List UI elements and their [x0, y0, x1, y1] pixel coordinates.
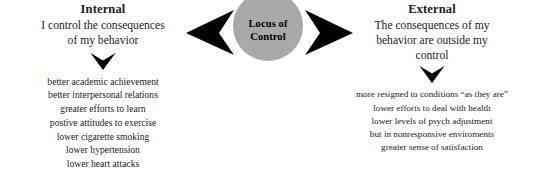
locus-label-line-1: Locus of	[248, 18, 287, 30]
list-item: better interpersonal relations	[5, 88, 201, 102]
external-subtitle-line-2: behavior are outside my	[340, 34, 524, 49]
list-item: greater efforts to learn	[5, 102, 201, 116]
external-outcome-list: more resigned to conditions “as they are…	[334, 88, 530, 154]
list-item: lower efforts to deal with health	[334, 102, 530, 115]
external-heading: External	[334, 2, 530, 17]
internal-heading: Internal	[5, 2, 201, 17]
arrow-left-icon	[186, 8, 236, 56]
list-item: lower heart attacks	[5, 157, 201, 171]
arrow-down-icon	[90, 53, 116, 70]
list-item: greater sense of satisfaction	[334, 141, 530, 154]
locus-of-control-circle: Locus of Control	[233, 0, 303, 61]
locus-of-control-diagram: Internal I control the consequences of m…	[0, 0, 533, 182]
external-column: External The consequences of my behavior…	[334, 0, 530, 154]
arrow-right-icon	[303, 8, 353, 56]
list-item: lower levels of psych adjustment	[334, 115, 530, 128]
internal-outcome-list: better academic achievement better inter…	[5, 75, 201, 171]
arrow-down-icon	[419, 66, 445, 83]
list-item: but in nonresponsive enviroments	[334, 128, 530, 141]
locus-of-control-label: Locus of Control	[248, 9, 287, 43]
list-item: lower cigarette smoking	[5, 130, 201, 144]
external-subtitle-line-1: The consequences of my	[340, 19, 524, 34]
internal-subtitle-line-1: I control the consequences	[11, 19, 195, 34]
list-item: lower hypertension	[5, 143, 201, 157]
external-subtitle-line-3: control	[340, 49, 524, 64]
external-subtitle: The consequences of my behavior are outs…	[334, 19, 530, 63]
internal-subtitle: I control the consequences of my behavio…	[5, 19, 201, 49]
list-item: postive attitudes to exercise	[5, 116, 201, 130]
list-item: better academic achievement	[5, 75, 201, 89]
internal-column: Internal I control the consequences of m…	[5, 0, 201, 171]
list-item: more resigned to conditions “as they are…	[334, 88, 530, 101]
internal-subtitle-line-2: of my behavior	[11, 34, 195, 49]
locus-label-line-2: Control	[248, 31, 287, 43]
